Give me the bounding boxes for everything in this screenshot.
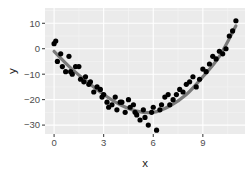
x-axis-title: x [142, 157, 148, 169]
x-tick-label: 9 [200, 137, 205, 148]
data-point [137, 117, 142, 122]
data-point [98, 87, 103, 92]
data-point [207, 61, 212, 66]
data-point [134, 112, 139, 117]
data-point [109, 102, 114, 107]
data-point [104, 100, 109, 105]
data-point [227, 33, 232, 38]
y-tick-label: −30 [24, 119, 40, 130]
data-point [141, 107, 146, 112]
data-point [88, 79, 93, 84]
y-tick-label: 0 [35, 43, 40, 54]
data-point [123, 110, 128, 115]
y-axis-title: y [6, 68, 18, 74]
data-point [180, 89, 185, 94]
y-axis-ticks: 100−10−20−30 [24, 18, 45, 131]
y-tick-label: −10 [24, 69, 40, 80]
x-tick-label: 6 [151, 137, 156, 148]
data-point [131, 102, 136, 107]
data-point [76, 64, 81, 69]
data-point [91, 89, 96, 94]
data-point [197, 77, 202, 82]
data-point [63, 69, 68, 74]
data-point [119, 100, 124, 105]
data-point [167, 102, 172, 107]
x-tick-label: 3 [101, 137, 106, 148]
data-point [166, 92, 171, 97]
data-point [187, 79, 192, 84]
data-point [233, 18, 238, 23]
data-point [157, 107, 162, 112]
data-point [149, 110, 154, 115]
data-point [70, 72, 75, 77]
data-point [230, 28, 235, 33]
data-point [159, 102, 164, 107]
data-point [83, 74, 88, 79]
data-point [60, 64, 65, 69]
data-point [154, 128, 159, 133]
data-point [204, 69, 209, 74]
scatter-chart: 100−10−20−30 0369 x y [0, 0, 249, 173]
x-axis-ticks: 0369 [51, 134, 205, 148]
data-point [81, 79, 86, 84]
data-point [55, 59, 60, 64]
data-point [220, 51, 225, 56]
data-point [170, 97, 175, 102]
data-point [66, 54, 71, 59]
y-tick-label: 10 [29, 18, 40, 29]
data-point [194, 84, 199, 89]
data-point [58, 51, 63, 56]
data-point [146, 122, 151, 127]
data-point [190, 74, 195, 79]
data-point [142, 115, 147, 120]
x-tick-label: 0 [51, 137, 56, 148]
data-point [126, 97, 131, 102]
data-point [223, 46, 228, 51]
data-point [174, 92, 179, 97]
data-point [101, 92, 106, 97]
data-point [113, 94, 118, 99]
data-point [213, 56, 218, 61]
y-tick-label: −20 [24, 94, 40, 105]
data-point [151, 105, 156, 110]
data-point [114, 107, 119, 112]
data-point [53, 38, 58, 43]
